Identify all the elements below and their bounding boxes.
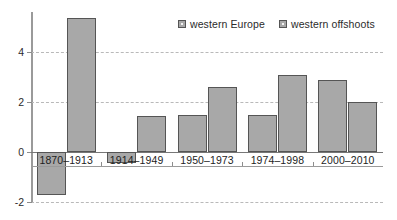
x-category-label-1914-1949: 1914–1949 [110, 154, 163, 166]
bar-1974-1998-western-offshoots [278, 75, 307, 153]
x-category-label-1974-1998: 1974–1998 [251, 154, 304, 166]
y-tick-label-4: 4 [18, 46, 24, 58]
x-tick-mark-1 [101, 162, 102, 166]
bar-1974-1998-western-europe [248, 115, 277, 153]
y-tick-mark--2 [27, 202, 32, 203]
bar-1950-1973-western-europe [178, 115, 207, 153]
bar-1950-1973-western-offshoots [208, 87, 237, 152]
x-axis-line [31, 166, 383, 167]
y-tick-mark-2 [27, 102, 32, 103]
x-category-label-1950-1973: 1950–1973 [180, 154, 233, 166]
plot-area: 420-2 1870–19131914–19491950–19731974–19… [31, 12, 383, 202]
x-category-label-1870-1913: 1870–1913 [39, 154, 92, 166]
zero-baseline [31, 152, 383, 153]
x-tick-mark-3 [242, 162, 243, 166]
bar-2000-2010-western-offshoots [348, 102, 377, 152]
gridline--2 [31, 202, 383, 203]
bar-1914-1949-western-offshoots [137, 116, 166, 152]
y-tick-mark-4 [27, 52, 32, 53]
bar-chart-figure: western Europe western offshoots 420-2 1… [0, 0, 397, 220]
y-tick-label--2: -2 [15, 196, 24, 208]
x-tick-mark-2 [172, 162, 173, 166]
x-tick-mark-4 [313, 162, 314, 166]
x-category-label-2000-2010: 2000–2010 [321, 154, 374, 166]
bar-2000-2010-western-europe [318, 80, 347, 153]
y-tick-label-0: 0 [18, 146, 24, 158]
y-tick-label-2: 2 [18, 96, 24, 108]
bar-1870-1913-western-offshoots [67, 18, 96, 152]
y-axis-spine [31, 12, 33, 202]
